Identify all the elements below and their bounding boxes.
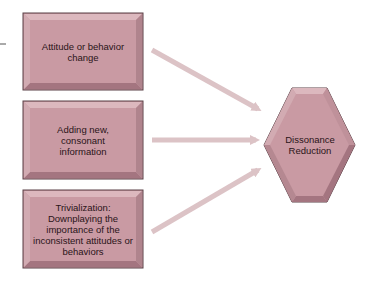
target-dissonance-reduction: Dissonance Reduction bbox=[278, 125, 342, 165]
source-box-consonant-info: Adding new, consonant information bbox=[30, 108, 136, 172]
arrow-1 bbox=[152, 50, 258, 109]
arrows bbox=[152, 50, 258, 232]
target-label: Dissonance Reduction bbox=[278, 134, 342, 156]
source-label: Trivialization: Downplaying the importan… bbox=[32, 202, 134, 257]
source-label: Adding new, consonant information bbox=[48, 124, 118, 157]
source-label: Attitude or behavior change bbox=[38, 41, 128, 63]
arrow-3 bbox=[152, 170, 258, 232]
source-box-attitude-change: Attitude or behavior change bbox=[30, 20, 136, 83]
source-box-trivialization: Trivialization: Downplaying the importan… bbox=[30, 197, 136, 261]
